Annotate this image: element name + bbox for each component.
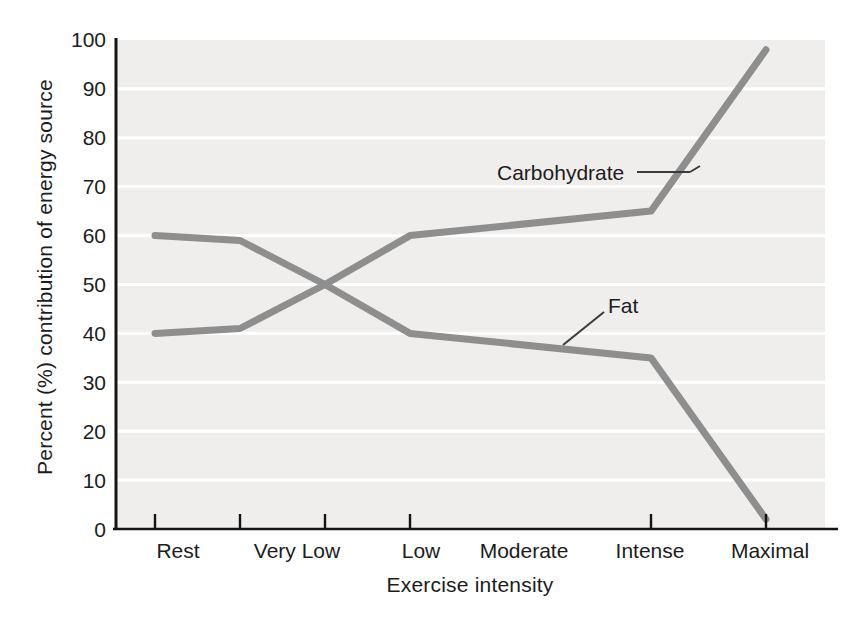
energy-source-line-chart: 100 90 80 70 60 50 40 30 20 10 0 Rest Ve… xyxy=(0,0,846,619)
carbohydrate-series-label: Carbohydrate xyxy=(497,162,624,183)
x-tick-intense: Intense xyxy=(616,540,685,561)
x-tick-rest: Rest xyxy=(156,540,199,561)
x-tick-low: Low xyxy=(402,540,441,561)
chart-plot-area xyxy=(0,0,846,619)
y-axis-title: Percent (%) contribution of energy sourc… xyxy=(33,17,57,537)
fat-series-label: Fat xyxy=(608,295,638,316)
x-axis-title: Exercise intensity xyxy=(115,573,825,597)
x-tick-moderate: Moderate xyxy=(480,540,569,561)
x-tick-very-low: Very Low xyxy=(254,540,340,561)
x-tick-maximal: Maximal xyxy=(731,540,809,561)
